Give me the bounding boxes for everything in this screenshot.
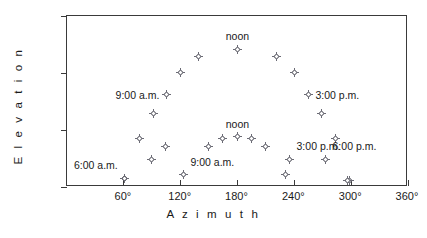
data-point-marker — [161, 142, 170, 151]
data-point-marker — [317, 109, 326, 118]
y-axis-tick-mark — [61, 130, 67, 131]
data-point-annotation: noon — [226, 118, 249, 130]
data-point-marker — [120, 174, 129, 183]
y-axis-tick-mark — [61, 16, 67, 17]
data-point-marker — [272, 52, 281, 61]
data-point-marker — [281, 170, 290, 179]
sun-path-chart-figure: E l e v a t i o n A z i m u t h 60°120°1… — [0, 0, 427, 238]
data-point-marker — [204, 142, 213, 151]
y-axis-tick-mark — [61, 73, 67, 74]
y-axis-title: E l e v a t i o n — [12, 46, 24, 166]
x-axis-tick-label: 300° — [339, 190, 362, 202]
y-axis-tick-mark — [61, 187, 67, 188]
data-point-marker — [233, 45, 242, 54]
data-point-annotation: 3:00 p.m. — [315, 89, 359, 101]
data-point-annotation: 6:00 a.m. — [74, 159, 118, 171]
data-point-marker — [247, 134, 256, 143]
data-point-marker — [343, 176, 352, 185]
x-axis-title: A z i m u t h — [0, 208, 427, 220]
data-point-marker — [290, 68, 299, 77]
x-axis-tick-mark — [408, 180, 409, 186]
x-axis-tick-label: 180° — [225, 190, 248, 202]
data-point-annotation: 9:00 a.m. — [190, 156, 234, 168]
data-point-marker — [218, 134, 227, 143]
data-point-marker — [321, 155, 330, 164]
data-point-marker — [147, 155, 156, 164]
data-point-marker — [285, 155, 294, 164]
data-point-marker — [176, 68, 185, 77]
data-point-marker — [179, 170, 188, 179]
data-point-marker — [233, 132, 242, 141]
data-point-marker — [149, 109, 158, 118]
data-point-marker — [162, 90, 171, 99]
x-axis-tick-label: 60° — [115, 190, 132, 202]
x-axis-tick-mark — [180, 180, 181, 186]
data-point-marker — [135, 134, 144, 143]
x-axis-tick-mark — [294, 180, 295, 186]
x-axis-tick-label: 240° — [282, 190, 305, 202]
data-point-marker — [304, 90, 313, 99]
data-point-annotation: noon — [226, 30, 249, 42]
x-axis-tick-label: 360° — [396, 190, 419, 202]
data-point-marker — [261, 142, 270, 151]
data-point-annotation: 9:00 a.m. — [116, 89, 160, 101]
data-point-annotation: 6:00 p.m. — [333, 140, 377, 152]
x-axis-tick-mark — [237, 180, 238, 186]
data-point-marker — [194, 52, 203, 61]
x-axis-tick-label: 120° — [168, 190, 191, 202]
